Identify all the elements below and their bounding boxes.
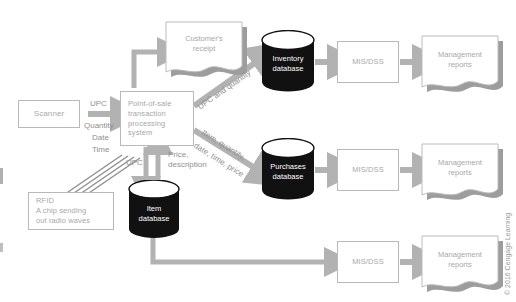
node-pos-system-label: Point-of-sale transaction processing sys… [121, 99, 193, 139]
node-item-database-label: Item database [128, 204, 180, 223]
node-scanner-label: Scanner [30, 109, 69, 120]
node-mis-dss-bottom-label: MIS/DSS [348, 257, 388, 267]
node-pos-system: Point-of-sale transaction processing sys… [120, 91, 194, 146]
node-rfid-label: RFID A chip sending out radio waves [29, 196, 113, 226]
node-management-reports-top: Management reports [422, 36, 498, 88]
node-management-reports-top-label: Management reports [422, 50, 498, 70]
flow-label-upc-to-item-database: UPC [126, 158, 143, 168]
node-management-reports-middle: Management reports [422, 144, 498, 196]
node-mis-dss-top: MIS/DSS [337, 41, 399, 83]
node-purchases-database-label: Purchases database [261, 162, 315, 181]
node-customer-receipt-label: Customer's receipt [166, 34, 242, 54]
node-inventory-database-label: Inventory database [261, 54, 315, 73]
node-scanner: Scanner [18, 100, 80, 128]
flow-label-upc: UPC [90, 99, 107, 109]
flow-label-quantity: Quantity [84, 121, 114, 131]
node-customer-receipt: Customer's receipt [166, 22, 242, 72]
node-mis-dss-middle-label: MIS/DSS [348, 165, 388, 175]
node-management-reports-bottom-label: Management reports [422, 250, 498, 270]
flow-label-time: Time [92, 145, 109, 155]
node-mis-dss-top-label: MIS/DSS [348, 57, 388, 67]
node-management-reports-bottom: Management reports [422, 236, 498, 288]
page-edge-mark-bottom [0, 243, 3, 252]
node-inventory-database: Inventory database [261, 30, 315, 92]
node-rfid: RFID A chip sending out radio waves [28, 192, 114, 230]
node-mis-dss-bottom: MIS/DSS [337, 241, 399, 283]
flow-label-date: Date [92, 133, 109, 143]
page-edge-mark-top [0, 168, 3, 184]
node-mis-dss-middle: MIS/DSS [337, 149, 399, 191]
diagram-canvas: Scanner RFID A chip sending out radio wa… [0, 0, 516, 302]
node-management-reports-middle-label: Management reports [422, 158, 498, 178]
node-item-database: Item database [128, 180, 180, 238]
node-purchases-database: Purchases database [261, 138, 315, 200]
copyright-credit: © 2016 Cengage Learning [504, 213, 511, 295]
